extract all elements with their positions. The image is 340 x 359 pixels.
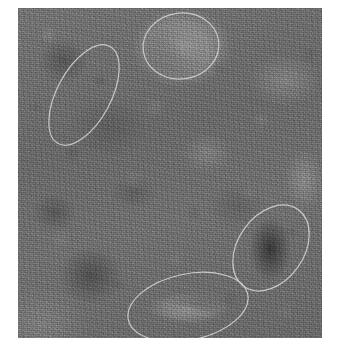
scan-image-plate[interactable] [18, 8, 322, 338]
roi-ellipse-right[interactable] [217, 191, 322, 306]
roi-ellipse-left[interactable] [34, 34, 133, 156]
page-root [0, 0, 340, 359]
roi-ellipse-top[interactable] [139, 8, 223, 84]
annotation-overlay [18, 8, 322, 338]
